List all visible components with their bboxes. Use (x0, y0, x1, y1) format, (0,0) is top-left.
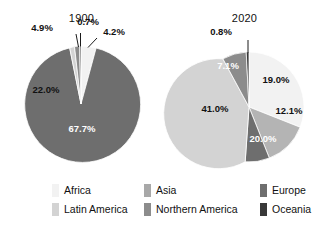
chart-legend: Africa Asia Europe Latin America Norther… (0, 182, 326, 222)
pie-label-europe: 20.0% (250, 133, 277, 144)
legend-item-oceania[interactable]: Oceania (260, 203, 311, 216)
legend-item-latin-america[interactable]: Latin America (52, 203, 144, 216)
pie-label-africa: 4.2% (103, 26, 125, 37)
legend-label-africa: Africa (64, 185, 91, 196)
pie-svg-1900: 67.7% 22.0% 4.9% 0.7% 4.2% (0, 0, 163, 172)
pie-chart-1900: 1900 (0, 0, 163, 172)
legend-item-africa[interactable]: Africa (52, 184, 144, 197)
pie-label-asia: 67.7% (69, 123, 96, 134)
legend-item-europe[interactable]: Europe (260, 184, 311, 197)
pie-slices-1900 (25, 46, 141, 162)
legend-label-oceania: Oceania (272, 204, 311, 215)
pie-area-2020: 19.0% 12.1% 20.0% 41.0% 7.1% 0.8% (163, 0, 326, 172)
legend-swatch-oceania (260, 203, 267, 216)
pie-label-europe: 22.0% (33, 84, 60, 95)
legend-swatch-africa (52, 184, 59, 197)
figure-canvas: 1900 (0, 0, 326, 225)
legend-grid: Africa Asia Europe Latin America Norther… (52, 182, 311, 218)
legend-label-latin-america: Latin America (64, 204, 128, 215)
pie-area-1900: 67.7% 22.0% 4.9% 0.7% 4.2% (0, 0, 163, 172)
pie-label-africa: 19.0% (263, 74, 290, 85)
legend-swatch-latin-america (52, 203, 59, 216)
callout-line-africa (88, 38, 97, 48)
legend-item-asia[interactable]: Asia (144, 184, 260, 197)
legend-label-northern-america: Northern America (156, 204, 238, 215)
pie-label-latin-america: 4.9% (31, 22, 53, 33)
pie-label-oceania: 0.7% (77, 16, 99, 27)
legend-swatch-europe (260, 184, 267, 197)
legend-swatch-asia (144, 184, 151, 197)
pie-svg-2020: 19.0% 12.1% 20.0% 41.0% 7.1% 0.8% (163, 0, 326, 172)
legend-label-europe: Europe (272, 185, 306, 196)
pie-callouts-1900 (76, 33, 97, 48)
legend-label-asia: Asia (156, 185, 176, 196)
legend-swatch-northern-america (144, 203, 151, 216)
pie-label-northern-america: 7.1% (217, 60, 239, 71)
pie-chart-2020: 2020 (163, 0, 326, 172)
callout-line-latin-america (76, 34, 79, 47)
pie-label-latin-america: 41.0% (202, 103, 229, 114)
pie-label-oceania: 0.8% (210, 26, 232, 37)
legend-item-northern-america[interactable]: Northern America (144, 203, 260, 216)
pie-label-asia: 12.1% (276, 105, 303, 116)
